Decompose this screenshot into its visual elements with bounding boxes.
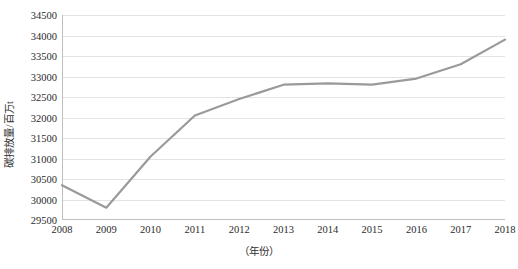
y-axis-tick-label: 33000 xyxy=(31,71,57,82)
line-chart: 碳排放量/百万t 2950030000305003100031500320003… xyxy=(0,0,518,269)
x-axis-tick-label: 2016 xyxy=(406,224,427,235)
x-axis-tick-label: 2018 xyxy=(495,224,516,235)
y-axis-tick-label: 31000 xyxy=(31,153,57,164)
x-axis-tick-label: 2017 xyxy=(450,224,471,235)
y-axis-title-label: 碳排放量/百万t xyxy=(2,101,17,168)
x-axis-tick-label: 2009 xyxy=(96,224,117,235)
x-axis-tick-label: 2008 xyxy=(52,224,73,235)
y-axis-tick-label: 30500 xyxy=(31,174,57,185)
y-axis-tick-label: 32000 xyxy=(31,112,57,123)
x-axis-tick-label: 2011 xyxy=(185,224,206,235)
series-line-carbon-emissions xyxy=(62,40,505,208)
y-axis-tick-label: 34000 xyxy=(31,30,57,41)
x-axis-title: （年份） xyxy=(0,243,518,258)
x-axis-tick-label: 2015 xyxy=(362,224,383,235)
y-axis-tick-label: 34500 xyxy=(31,10,57,21)
x-axis-tick-label: 2013 xyxy=(273,224,294,235)
y-axis-title: 碳排放量/百万t xyxy=(0,0,18,269)
y-axis-tick-label: 31500 xyxy=(31,133,57,144)
x-axis-tick-label: 2010 xyxy=(140,224,161,235)
series-layer xyxy=(62,15,505,220)
y-axis-tick-label: 30000 xyxy=(31,194,57,205)
y-axis-tick-label: 33500 xyxy=(31,51,57,62)
x-axis-tick-label: 2012 xyxy=(229,224,250,235)
x-axis-title-label: （年份） xyxy=(239,246,279,257)
x-axis-tick-label: 2014 xyxy=(317,224,338,235)
plot-area xyxy=(62,15,505,220)
y-axis-tick-label: 32500 xyxy=(31,92,57,103)
x-axis-tick-labels: 2008200920102011201220132014201520162017… xyxy=(62,224,505,242)
